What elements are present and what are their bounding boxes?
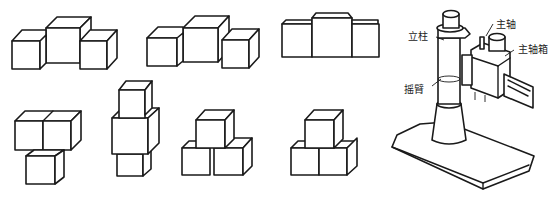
- cube-group-3: [282, 13, 379, 57]
- cube-group-2: [147, 16, 259, 68]
- label-column: 立柱: [408, 30, 428, 42]
- label-spindle: 主轴: [496, 18, 516, 30]
- cube-group-7: [291, 110, 357, 175]
- column: [438, 38, 460, 104]
- cube-group-4: [15, 111, 81, 184]
- spindle: [480, 37, 484, 49]
- label-arm: 摇臂: [404, 83, 424, 95]
- diagram-canvas: 立柱 摇臂 主轴 主轴箱: [0, 0, 551, 199]
- label-spindle-box: 主轴箱: [518, 43, 548, 55]
- cube-group-6: [182, 110, 252, 175]
- cube-group-5: [112, 81, 159, 176]
- cube-group-1: [12, 17, 117, 69]
